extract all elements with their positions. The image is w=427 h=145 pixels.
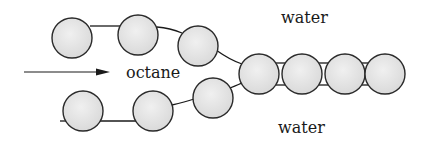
bead xyxy=(63,91,103,131)
label-octane: octane xyxy=(126,63,180,82)
bead xyxy=(325,54,365,94)
bead xyxy=(133,91,173,131)
top-strand xyxy=(52,15,218,66)
bead xyxy=(239,54,279,94)
bead xyxy=(178,26,218,66)
label-bottom-water: water xyxy=(278,118,325,137)
bottom-strand xyxy=(63,78,233,131)
label-top-water: water xyxy=(281,8,328,27)
bead xyxy=(193,78,233,118)
bead xyxy=(118,15,158,55)
flow-arrow-icon xyxy=(24,69,110,76)
bead xyxy=(365,54,405,94)
octane-water-interface-diagram: water octane water xyxy=(0,0,427,145)
merged-chain xyxy=(239,54,405,94)
bead xyxy=(282,54,322,94)
bead xyxy=(52,18,92,58)
